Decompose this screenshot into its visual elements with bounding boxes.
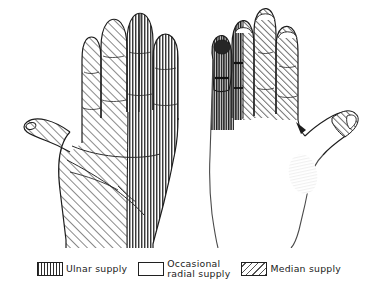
legend-item-median: Median supply [241, 262, 341, 276]
legend: Ulnar supply Occasional radial supply Me… [0, 252, 378, 286]
legend-label-ulnar: Ulnar supply [66, 264, 127, 274]
hands-illustration [0, 0, 378, 248]
legend-item-ulnar: Ulnar supply [37, 262, 127, 276]
legend-label-median: Median supply [270, 264, 341, 274]
legend-label-occasional-radial: Occasional radial supply [167, 259, 230, 279]
legend-swatch-occasional-radial [138, 262, 164, 276]
legend-item-occasional-radial: Occasional radial supply [138, 259, 230, 279]
dorsal-little-nail [214, 40, 230, 54]
legend-swatch-median [241, 262, 267, 276]
legend-swatch-ulnar [37, 262, 63, 276]
nerve-supply-figure: Ulnar supply Occasional radial supply Me… [0, 0, 378, 293]
